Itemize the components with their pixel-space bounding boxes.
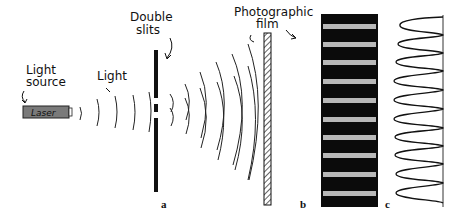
incident-waves <box>80 92 151 132</box>
panel-label-b: b <box>300 198 306 210</box>
double-slit-diagram: Light source Laser Light Double slits <box>0 0 454 218</box>
light-source-label: Light source <box>22 63 66 103</box>
svg-text:Double: Double <box>130 10 173 24</box>
laser: Laser <box>23 106 72 118</box>
double-slits-label: Double slits <box>130 10 173 59</box>
svg-text:slits: slits <box>136 23 160 37</box>
laser-label: Laser <box>31 108 57 118</box>
intensity-profile-curve <box>394 15 443 207</box>
panel-label-a: a <box>161 198 167 210</box>
diffracted-waves <box>170 44 258 180</box>
svg-text:source: source <box>26 75 66 89</box>
photographic-film-label: Photographic film <box>234 5 313 42</box>
interference-fringe-image <box>321 14 378 207</box>
svg-text:Light: Light <box>97 69 127 83</box>
light-label: Light <box>97 69 127 92</box>
photographic-film <box>264 33 271 205</box>
svg-text:film: film <box>256 17 279 31</box>
double-slit-barrier <box>154 50 158 192</box>
panel-label-c: c <box>385 198 390 210</box>
